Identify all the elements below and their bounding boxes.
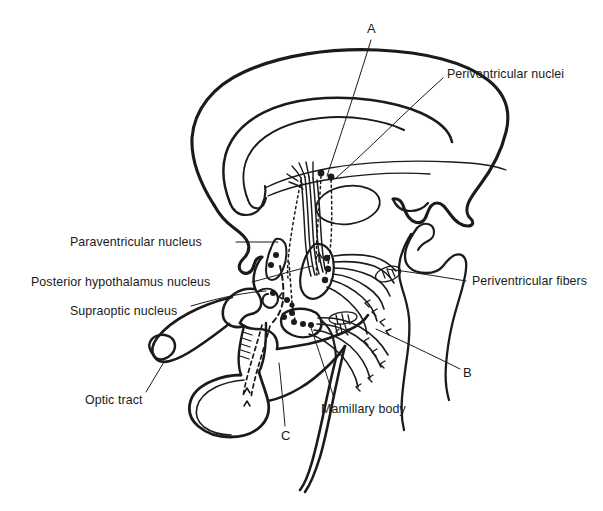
- figure-canvas: A Periventricular nuclei Paraventricular…: [0, 0, 603, 511]
- posterior-hypo-dot-3: [322, 277, 328, 283]
- pituitary-tract-arrow-2: [244, 401, 250, 406]
- label-periventricular-fibers: Periventricular fibers: [472, 275, 587, 287]
- pituitary-inner: [196, 380, 244, 435]
- fiber-arrow-terminals: [356, 300, 391, 391]
- leader-line-a: [327, 40, 371, 176]
- label-posterior-hypothalamus-nucleus: Posterior hypothalamus nucleus: [31, 276, 210, 288]
- posterior-hypo-internal-arrow: [316, 253, 322, 262]
- brainstem-dorsal-outline: [405, 228, 466, 400]
- fiber-terminal-brush-1: [335, 324, 348, 335]
- brainstem-upper-notch-2: [418, 241, 428, 250]
- leader-line-periventricular-nuclei: [336, 78, 443, 178]
- cerebrum-inferior-outline: [214, 205, 262, 273]
- tuberal-dot-3: [281, 314, 287, 320]
- tuberal-dot-4: [289, 302, 294, 307]
- tuberal-dot-1: [284, 297, 290, 303]
- supraoptic-dot-1: [270, 290, 276, 296]
- pituitary-tract-arrow-1: [244, 388, 250, 393]
- brainstem-ventral-outline: [399, 234, 411, 430]
- label-mamillary-body: Mamillary body: [321, 403, 406, 415]
- mamillary-dot-1: [291, 319, 297, 325]
- mamillary-dot-3: [308, 322, 314, 328]
- leader-line-c: [279, 363, 285, 426]
- label-supraoptic-nucleus: Supraoptic nucleus: [70, 305, 177, 317]
- posterior-hypo-dot-1: [324, 255, 330, 261]
- corpus-callosum-inner: [243, 117, 404, 200]
- label-marker-a: A: [367, 22, 376, 35]
- paraventricular-dot-2: [268, 262, 274, 268]
- mamillary-dot-2: [300, 321, 306, 327]
- paraventricular-dot-1: [273, 252, 279, 258]
- label-paraventricular-nucleus: Paraventricular nucleus: [70, 236, 202, 248]
- tuberal-dot-2: [289, 310, 295, 316]
- label-periventricular-nuclei: Periventricular nuclei: [447, 68, 564, 80]
- brainstem-notch: [417, 224, 434, 241]
- thalamus-oval: [314, 182, 383, 229]
- leader-line-optic-tract: [146, 362, 164, 392]
- posterior-hypo-dot-2: [325, 266, 331, 272]
- label-marker-c: C: [281, 429, 290, 442]
- label-marker-b: B: [463, 366, 472, 379]
- label-optic-tract: Optic tract: [85, 394, 143, 406]
- ventral-brainstem-long-curve-2: [300, 358, 336, 490]
